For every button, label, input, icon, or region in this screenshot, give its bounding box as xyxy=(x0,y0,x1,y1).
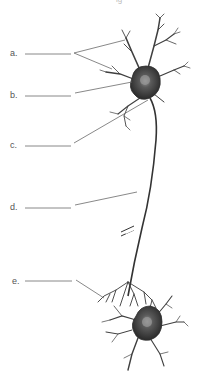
leader-lines xyxy=(25,40,148,298)
nucleus-lower xyxy=(142,317,152,327)
axon-terminals xyxy=(98,282,156,308)
label-e: e. xyxy=(12,276,20,286)
nucleus xyxy=(140,75,150,85)
label-c: c. xyxy=(10,140,17,150)
label-d: d. xyxy=(10,202,18,212)
neuron-diagram xyxy=(0,0,224,379)
label-b: b. xyxy=(10,90,18,100)
label-a: a. xyxy=(10,48,18,58)
axon xyxy=(128,98,156,296)
